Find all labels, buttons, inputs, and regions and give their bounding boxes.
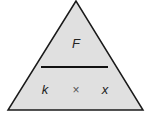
top-variable: F bbox=[72, 36, 81, 51]
formula-triangle: F k × x bbox=[0, 0, 150, 118]
multiply-operator: × bbox=[72, 83, 79, 97]
bottom-right-variable: x bbox=[101, 82, 109, 97]
